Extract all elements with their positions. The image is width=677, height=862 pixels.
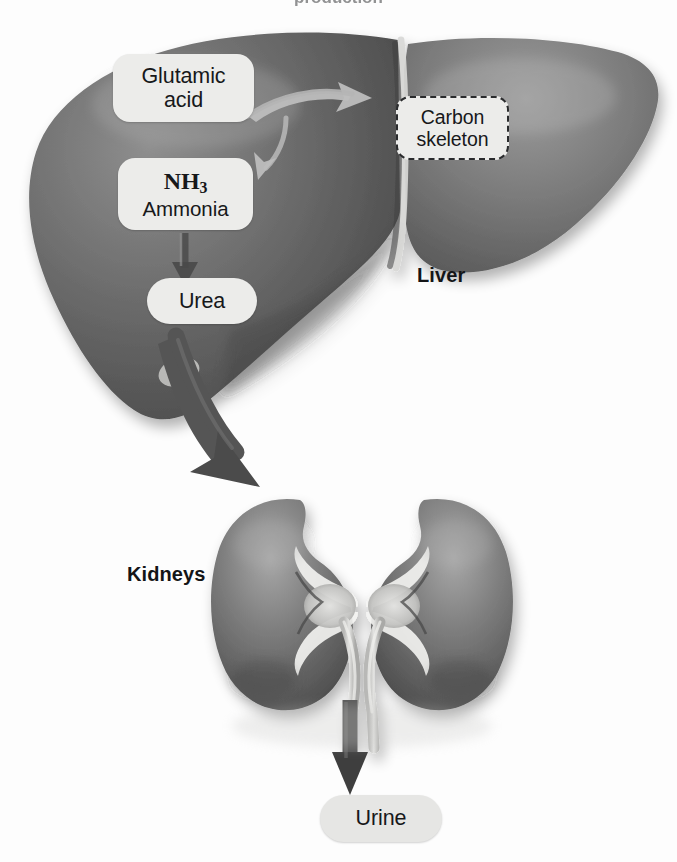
urea-label: Urea <box>179 289 225 314</box>
organ-label-kidneys: Kidneys <box>127 563 206 586</box>
title-fragment-text: production <box>294 0 383 8</box>
callout-glutamic-acid[interactable]: Glutamic acid <box>113 54 254 122</box>
urea-excretion-diagram: production <box>0 0 677 862</box>
kidney-right <box>366 499 513 710</box>
callout-urea[interactable]: Urea <box>147 278 257 324</box>
callout-carbon-skeleton[interactable]: Carbon skeleton <box>396 96 509 160</box>
ammonia-formula-base: NH <box>164 168 200 194</box>
cropped-title-fragment: production <box>0 0 677 12</box>
organ-artwork <box>0 0 677 862</box>
ammonia-name: Ammonia <box>143 197 229 220</box>
ammonia-formula-subscript: 3 <box>199 179 207 196</box>
organ-label-liver: Liver <box>417 264 465 287</box>
urine-label: Urine <box>356 806 407 831</box>
carbon-skeleton-line-2: skeleton <box>417 128 489 150</box>
glutamic-acid-line-1: Glutamic <box>141 64 225 89</box>
carbon-skeleton-line-1: Carbon <box>421 106 484 128</box>
glutamic-acid-line-2: acid <box>164 88 203 113</box>
kidney-ground-shadow <box>232 704 492 748</box>
callout-urine[interactable]: Urine <box>320 795 442 842</box>
ammonia-chemical-formula: NH3 <box>164 168 208 195</box>
callout-ammonia[interactable]: NH3 Ammonia <box>118 158 253 230</box>
kidney-left <box>211 499 358 710</box>
